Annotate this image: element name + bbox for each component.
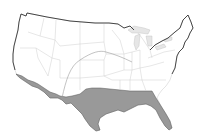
great-lakes xyxy=(128,26,172,50)
us-map xyxy=(0,0,206,136)
